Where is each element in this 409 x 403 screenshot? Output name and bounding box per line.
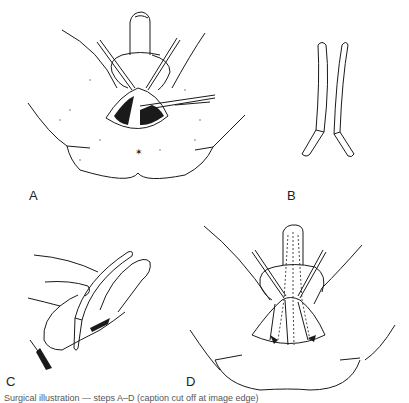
panel-label-c: C: [6, 375, 15, 388]
svg-text:✶: ✶: [135, 147, 143, 157]
figure-caption: Surgical illustration — steps A–D (capti…: [4, 394, 408, 403]
panel-b-illustration: [260, 20, 409, 190]
panel-c-illustration: [0, 200, 200, 375]
panel-d-illustration: [190, 200, 409, 395]
panel-label-d: D: [186, 375, 195, 388]
panel-a-illustration: ✶: [0, 0, 260, 190]
sound-instruments-drawing: [260, 20, 409, 190]
sound-insertion-drawing: [0, 200, 200, 375]
perineal-closure-drawing: [190, 200, 409, 395]
perineum-exposure-drawing: ✶: [0, 0, 260, 190]
